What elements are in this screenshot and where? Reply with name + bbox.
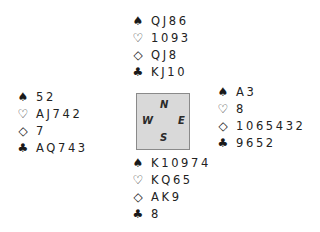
south-spades-row: ♠ K10974 (130, 155, 211, 172)
compass-south-label: S (160, 133, 167, 143)
south-spades-cards: K10974 (151, 155, 211, 172)
compass-north-label: N (160, 100, 168, 110)
south-clubs-row: ♣ 8 (130, 206, 211, 223)
east-spades-row: ♠ A3 (215, 84, 306, 101)
spade-icon: ♠ (15, 89, 31, 106)
west-hand: ♠ 52 ♡ AJ742 ◇ 7 ♣ AQ743 (15, 89, 88, 157)
south-hearts-row: ♡ KQ65 (130, 172, 211, 189)
north-spades-row: ♠ QJ86 (130, 13, 191, 30)
east-hearts-row: ♡ 8 (215, 101, 306, 118)
club-icon: ♣ (15, 140, 31, 157)
south-hearts-cards: KQ65 (151, 172, 193, 189)
west-spades-cards: 52 (36, 89, 56, 106)
heart-icon: ♡ (15, 106, 31, 123)
north-spades-cards: QJ86 (151, 13, 188, 30)
diamond-icon: ◇ (15, 123, 31, 140)
south-diamonds-cards: AK9 (151, 189, 182, 206)
east-hand: ♠ A3 ♡ 8 ◇ 1065432 ♣ 9652 (215, 84, 306, 152)
spade-icon: ♠ (130, 13, 146, 30)
east-diamonds-cards: 1065432 (236, 118, 305, 135)
heart-icon: ♡ (130, 172, 146, 189)
east-diamonds-row: ◇ 1065432 (215, 118, 306, 135)
north-hearts-cards: 1093 (151, 30, 191, 47)
compass-box: N W E S (136, 93, 190, 150)
north-hearts-row: ♡ 1093 (130, 30, 191, 47)
west-hearts-row: ♡ AJ742 (15, 106, 88, 123)
south-hand: ♠ K10974 ♡ KQ65 ◇ AK9 ♣ 8 (130, 155, 211, 223)
club-icon: ♣ (215, 135, 231, 152)
north-diamonds-cards: QJ8 (151, 47, 179, 64)
east-clubs-row: ♣ 9652 (215, 135, 306, 152)
north-hand: ♠ QJ86 ♡ 1093 ◇ QJ8 ♣ KJ10 (130, 13, 191, 81)
north-clubs-cards: KJ10 (151, 64, 187, 81)
spade-icon: ♠ (130, 155, 146, 172)
club-icon: ♣ (130, 64, 146, 81)
south-diamonds-row: ◇ AK9 (130, 189, 211, 206)
club-icon: ♣ (130, 206, 146, 223)
south-clubs-cards: 8 (151, 206, 161, 223)
east-spades-cards: A3 (236, 84, 256, 101)
east-hearts-cards: 8 (236, 101, 246, 118)
east-clubs-cards: 9652 (236, 135, 276, 152)
west-clubs-cards: AQ743 (36, 140, 88, 157)
diamond-icon: ◇ (215, 118, 231, 135)
spade-icon: ♠ (215, 84, 231, 101)
heart-icon: ♡ (215, 101, 231, 118)
west-diamonds-row: ◇ 7 (15, 123, 88, 140)
diamond-icon: ◇ (130, 47, 146, 64)
west-hearts-cards: AJ742 (36, 106, 82, 123)
north-clubs-row: ♣ KJ10 (130, 64, 191, 81)
west-diamonds-cards: 7 (36, 123, 46, 140)
diamond-icon: ◇ (130, 189, 146, 206)
west-clubs-row: ♣ AQ743 (15, 140, 88, 157)
north-diamonds-row: ◇ QJ8 (130, 47, 191, 64)
heart-icon: ♡ (130, 30, 146, 47)
compass-west-label: W (142, 116, 153, 126)
west-spades-row: ♠ 52 (15, 89, 88, 106)
compass-east-label: E (178, 116, 185, 126)
